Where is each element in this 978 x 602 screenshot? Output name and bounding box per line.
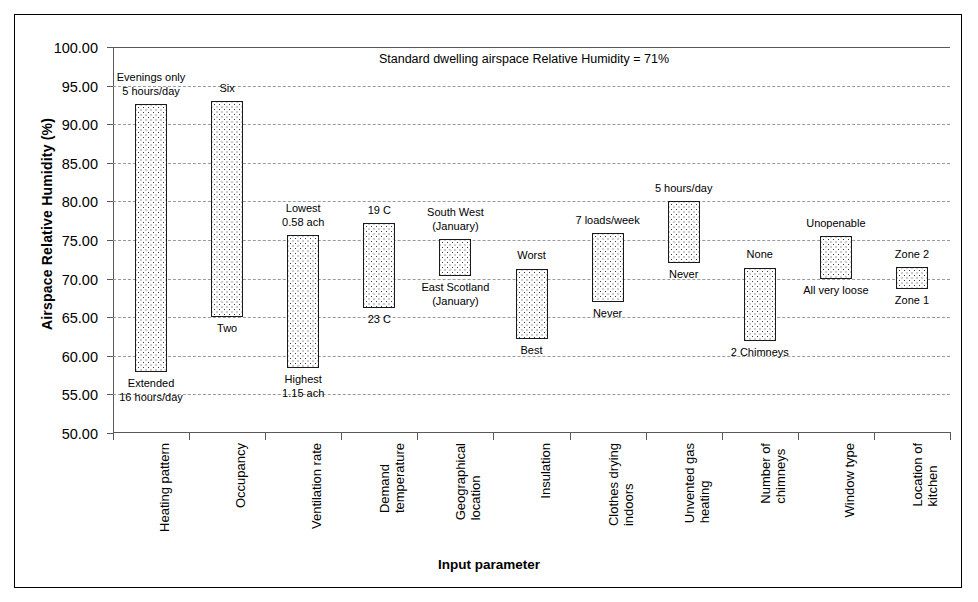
range-bar [439,239,471,276]
range-bar [744,268,776,341]
bar-top-label: Zone 2 [895,248,929,262]
x-axis-tick [341,432,342,440]
range-bar [287,235,319,368]
bar-bottom-label: Never [593,307,622,321]
x-axis-tick [417,432,418,440]
x-axis-category-label: Unvented gas heating [682,443,712,523]
x-axis-tick [798,432,799,440]
bar-top-label: Evenings only 5 hours/day [117,71,186,98]
range-bar [820,236,852,279]
y-axis-tick-label: 80.00 [62,194,98,210]
bar-top-label: Six [219,82,234,96]
y-axis-tick-label: 70.00 [62,272,98,288]
range-bar [668,201,700,263]
bar-bottom-label: Zone 1 [895,294,929,308]
range-bar [135,104,167,372]
x-axis-category-label: Location of kitchen [910,443,940,507]
bar-top-label: 5 hours/day [655,182,712,196]
x-axis-tick [570,432,571,440]
x-axis-category-label: Number of chimneys [758,443,788,504]
y-axis-tick-label: 55.00 [62,387,98,403]
range-bar [363,223,395,308]
gridline [113,47,950,48]
bar-bottom-label: 2 Chimneys [731,346,789,360]
bar-bottom-label: Best [520,344,542,358]
x-axis-category-label: Insulation [538,443,553,499]
y-axis-tick: 55.00 [107,394,113,395]
y-axis-tick-label: 90.00 [62,117,98,133]
bar-top-label: 7 loads/week [575,214,639,228]
bar-bottom-label: Extended 16 hours/day [119,377,183,404]
bar-top-label: South West (January) [427,206,484,233]
y-axis-tick: 70.00 [107,279,113,280]
x-axis-tick [646,432,647,440]
bar-bottom-label: Highest 1.15 ach [282,373,324,400]
y-axis-tick: 85.00 [107,163,113,164]
x-axis-tick [189,432,190,440]
y-axis-tick-label: 65.00 [62,310,98,326]
bar-top-label: Unopenable [806,217,865,231]
x-axis-category-label: Geographical location [453,443,483,520]
x-axis-title: Input parameter [0,557,978,572]
x-axis-line [113,432,950,433]
x-axis-tick [113,432,114,440]
range-bar [211,101,243,317]
bar-bottom-label: Never [669,268,698,282]
x-axis-tick [950,432,951,440]
bar-top-label: 19 C [368,204,391,218]
y-axis-tick-label: 85.00 [62,156,98,172]
x-axis-category-label: Clothes drying indoors [606,443,636,526]
x-axis-category-label: Occupancy [233,443,248,508]
y-axis-tick-label: 100.00 [54,40,98,56]
y-axis-tick-label: 60.00 [62,349,98,365]
plot-area: 100.0095.0090.0085.0080.0075.0070.0065.0… [113,47,950,433]
y-axis-tick: 90.00 [107,124,113,125]
bar-top-label: None [747,248,773,262]
y-axis-tick: 95.00 [107,86,113,87]
x-axis-tick [265,432,266,440]
chart-page: Airspace Relative Humidity (%) Input par… [0,0,978,602]
x-axis-category-label: Ventilation rate [309,443,324,529]
gridline [113,394,950,395]
bar-bottom-label: All very loose [803,284,868,298]
range-bar [592,233,624,302]
x-axis-tick [874,432,875,440]
y-axis-tick: 60.00 [107,356,113,357]
gridline [113,86,950,87]
bar-bottom-label: East Scotland (January) [421,281,489,308]
bar-top-label: Lowest 0.58 ach [282,202,324,229]
y-axis-tick: 80.00 [107,201,113,202]
x-axis-category-label: Demand temperature [377,443,407,513]
x-axis-category-label: Window type [842,443,857,517]
x-axis-category-label: Heating pattern [157,443,172,532]
y-axis-title: Airspace Relative Humidity (%) [39,74,55,374]
y-axis-tick: 65.00 [107,317,113,318]
x-axis-tick [493,432,494,440]
x-axis-tick [722,432,723,440]
bar-bottom-label: Two [217,322,237,336]
range-bar [896,267,928,289]
y-axis-tick-label: 50.00 [62,426,98,442]
bar-bottom-label: 23 C [368,313,391,327]
y-axis-tick: 75.00 [107,240,113,241]
y-axis-tick-label: 75.00 [62,233,98,249]
y-axis-tick-label: 95.00 [62,79,98,95]
y-axis-tick: 100.00 [107,47,113,48]
range-bar [516,269,548,339]
bar-top-label: Worst [517,249,546,263]
